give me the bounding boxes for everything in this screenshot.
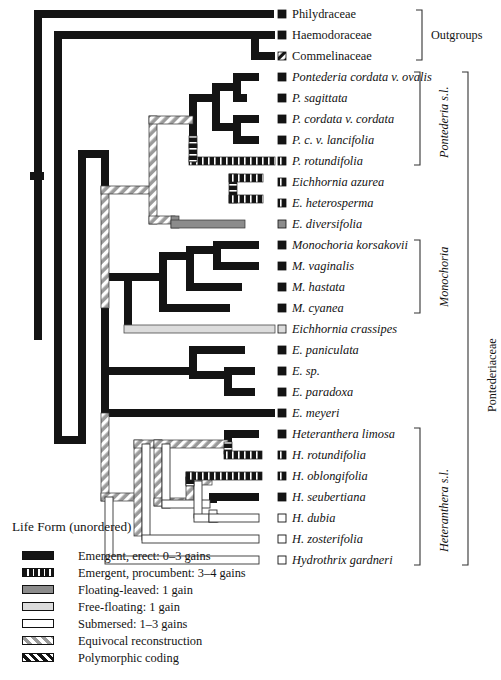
state-box-commelinaceae bbox=[278, 52, 286, 60]
state-box-haemodoraceae bbox=[278, 31, 286, 39]
state-box-philydraceae bbox=[278, 10, 286, 18]
state-box-h-seubertiana bbox=[278, 493, 286, 501]
clade-label-heteranthera-sl: Heteranthera s.l. bbox=[437, 469, 452, 552]
taxon-label-pontederia-cordata-ovalis: Pontederia cordata v. ovalis bbox=[292, 71, 432, 83]
legend-label-equivocal: Equivocal reconstruction bbox=[78, 634, 202, 649]
state-box-eichhornia-crassipes bbox=[278, 325, 286, 333]
state-box-m-cyanea bbox=[278, 304, 286, 312]
terminal-state-boxes bbox=[278, 10, 286, 564]
legend-label-emergent-erect: Emergent, erect: 0–3 gains bbox=[78, 549, 211, 564]
taxon-label-p-cordata-cordata: P. cordata v. cordata bbox=[292, 113, 394, 125]
taxon-label-e-meyeri: E. meyeri bbox=[292, 407, 339, 419]
state-box-h-oblongifolia bbox=[278, 472, 286, 480]
bracket-monochoria bbox=[414, 240, 420, 313]
state-box-h-zosterifolia bbox=[278, 535, 286, 543]
taxon-label-e-paniculata: E. paniculata bbox=[292, 344, 359, 356]
state-box-p-rotundifolia bbox=[278, 157, 286, 165]
taxon-label-m-cyanea: M. cyanea bbox=[292, 302, 344, 314]
legend-label-free-floating: Free-floating: 1 gain bbox=[78, 600, 180, 615]
state-box-monochoria-korsakovii bbox=[278, 241, 286, 249]
state-box-hydrothrix-gardneri bbox=[278, 556, 286, 564]
clade-label-pontederiaceae: Pontederiaceae bbox=[485, 338, 500, 412]
taxon-label-p-rotundifolia: P. rotundifolia bbox=[292, 155, 363, 167]
taxon-label-h-oblongifolia: H. oblongifolia bbox=[292, 470, 368, 482]
taxon-label-hydrothrix-gardneri: Hydrothrix gardneri bbox=[292, 554, 393, 566]
clade-label-outgroups: Outgroups bbox=[431, 28, 482, 43]
legend-swatch-emergent-procumbent bbox=[22, 568, 54, 577]
legend-swatch-emergent-erect bbox=[22, 551, 54, 560]
state-box-m-hastata bbox=[278, 283, 286, 291]
taxon-label-e-heterosperma: E. heterosperma bbox=[292, 197, 373, 209]
state-box-e-paniculata bbox=[278, 346, 286, 354]
legend-swatch-polymorphic bbox=[22, 653, 54, 662]
bracket-heteranthera-sl bbox=[414, 428, 420, 565]
state-box-h-rotundifolia bbox=[278, 451, 286, 459]
taxon-label-h-rotundifolia: H. rotundifolia bbox=[292, 449, 366, 461]
legend-title: Life Form (unordered) bbox=[12, 519, 131, 535]
taxon-label-p-c-lancifolia: P. c. v. lancifolia bbox=[292, 134, 374, 146]
bracket-pontederia-sl bbox=[414, 72, 420, 165]
legend-label-floating-leaved: Floating-leaved: 1 gain bbox=[78, 583, 193, 598]
legend-swatch-floating-leaved bbox=[22, 585, 54, 594]
legend-label-emergent-procumbent: Emergent, procumbent: 3–4 gains bbox=[78, 566, 246, 581]
state-box-pontederia-cordata-ovalis bbox=[278, 73, 286, 81]
state-box-h-dubia bbox=[278, 514, 286, 522]
state-box-e-diversifolia bbox=[278, 220, 286, 228]
state-box-e-heterosperma bbox=[278, 199, 286, 207]
clade-label-pontederia-sl: Pontederia s.l. bbox=[437, 87, 452, 158]
state-box-e-paradoxa bbox=[278, 388, 286, 396]
bracket-outgroups bbox=[416, 10, 422, 60]
state-box-p-sagittata bbox=[278, 94, 286, 102]
taxon-label-heteranthera-limosa: Heteranthera limosa bbox=[292, 428, 395, 440]
state-box-m-vaginalis bbox=[278, 262, 286, 270]
state-box-p-cordata-cordata bbox=[278, 115, 286, 123]
tree-svg bbox=[0, 0, 501, 680]
taxon-label-m-hastata: M. hastata bbox=[292, 281, 345, 293]
phylogenetic-tree-figure: Philydraceae Haemodoraceae Commelinaceae… bbox=[0, 0, 501, 680]
tree-branches bbox=[30, 10, 275, 564]
taxon-label-philydraceae: Philydraceae bbox=[292, 8, 356, 20]
state-box-eichhornia-azurea bbox=[278, 178, 286, 186]
taxon-label-eichhornia-crassipes: Eichhornia crassipes bbox=[292, 323, 397, 335]
state-box-e-sp bbox=[278, 367, 286, 375]
taxon-label-haemodoraceae: Haemodoraceae bbox=[292, 29, 372, 41]
state-box-heteranthera-limosa bbox=[278, 430, 286, 438]
legend-swatch-equivocal bbox=[22, 636, 54, 645]
taxon-label-commelinaceae: Commelinaceae bbox=[292, 50, 372, 62]
legend-label-submersed: Submersed: 1–3 gains bbox=[78, 617, 187, 632]
taxon-label-e-diversifolia: E. diversifolia bbox=[292, 218, 362, 230]
legend-swatch-submersed bbox=[22, 619, 54, 628]
taxon-label-h-dubia: H. dubia bbox=[292, 512, 335, 524]
taxon-label-h-zosterifolia: H. zosterifolia bbox=[292, 533, 363, 545]
state-box-p-c-lancifolia bbox=[278, 136, 286, 144]
legend-label-polymorphic: Polymorphic coding bbox=[78, 651, 179, 666]
bracket-pontederiaceae bbox=[462, 72, 468, 565]
taxon-label-e-paradoxa: E. paradoxa bbox=[292, 386, 353, 398]
legend-swatch-free-floating bbox=[22, 602, 54, 611]
taxon-label-eichhornia-azurea: Eichhornia azurea bbox=[292, 176, 384, 188]
taxon-label-e-sp: E. sp. bbox=[292, 365, 320, 377]
taxon-label-p-sagittata: P. sagittata bbox=[292, 92, 348, 104]
taxon-label-m-vaginalis: M. vaginalis bbox=[292, 260, 354, 272]
state-box-e-meyeri bbox=[278, 409, 286, 417]
clade-label-monochoria: Monochoria bbox=[437, 247, 452, 307]
taxon-label-h-seubertiana: H. seubertiana bbox=[292, 491, 366, 503]
taxon-label-monochoria-korsakovii: Monochoria korsakovii bbox=[292, 239, 408, 251]
